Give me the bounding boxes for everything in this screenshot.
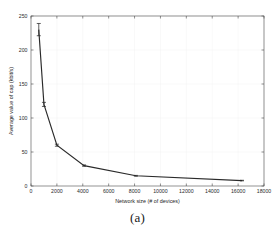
y-tick-label: 100 <box>19 115 28 121</box>
x-tick-label: 18000 <box>257 188 272 194</box>
error-bar <box>240 180 244 181</box>
x-tick-label: 10000 <box>153 188 168 194</box>
y-tick-label: 150 <box>19 81 28 87</box>
subfigure-caption: (a) <box>0 210 275 226</box>
x-tick-label: 6000 <box>103 188 115 194</box>
figure-panel: 0200040006000800010000120001400016000180… <box>0 0 275 239</box>
series-line <box>39 30 242 181</box>
y-tick-label: 0 <box>25 183 28 189</box>
x-tick-label: 12000 <box>179 188 194 194</box>
x-tick-label: 4000 <box>77 188 89 194</box>
x-axis-title: Network size (# of devices) <box>115 198 180 204</box>
error-bar <box>42 102 46 106</box>
line-chart: 0200040006000800010000120001400016000180… <box>0 0 275 208</box>
y-tick-label: 250 <box>19 13 28 19</box>
error-bar <box>37 23 41 35</box>
y-axis-title: Average value of cap (kbit/s) <box>8 67 14 135</box>
data-series <box>37 23 244 180</box>
y-tick-label: 200 <box>19 47 28 53</box>
x-tick-label: 2000 <box>51 188 63 194</box>
x-tick-label: 16000 <box>231 188 246 194</box>
x-tick-label: 14000 <box>205 188 220 194</box>
chart-plot-area: 0200040006000800010000120001400016000180… <box>0 0 275 208</box>
x-tick-label: 0 <box>30 188 33 194</box>
y-tick-label: 50 <box>22 149 28 155</box>
error-bar <box>55 144 59 146</box>
x-tick-label: 8000 <box>129 188 141 194</box>
